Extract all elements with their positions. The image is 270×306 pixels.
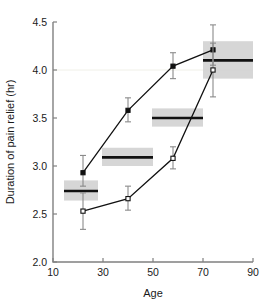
data-point-filled-square-series-1 <box>126 108 130 112</box>
y-tick-label-2: 3.0 <box>32 160 47 172</box>
x-axis-label: Age <box>143 287 163 299</box>
x-tick-label-1: 30 <box>97 266 109 278</box>
data-point-open-square-series-2 <box>171 156 175 160</box>
x-tick-label-4: 90 <box>247 266 259 278</box>
y-tick-label-1: 2.5 <box>32 208 47 220</box>
chart-figure: 2.02.53.03.54.04.5 1030507090 Age Durati… <box>0 0 270 306</box>
x-tick-label-2: 50 <box>147 266 159 278</box>
x-tick-label-0: 10 <box>47 266 59 278</box>
y-tick-label-4: 4.0 <box>32 64 47 76</box>
chart-canvas: 2.02.53.03.54.04.5 1030507090 Age Durati… <box>0 0 270 306</box>
data-point-filled-square-series-2 <box>171 64 175 68</box>
y-tick-label-0: 2.0 <box>32 256 47 268</box>
data-point-open-square-series-0 <box>81 209 85 213</box>
y-tick-label-5: 4.5 <box>32 16 47 28</box>
x-tick-label-3: 70 <box>197 266 209 278</box>
y-axis-label: Duration of pain relief (hr) <box>4 80 16 205</box>
y-tick-label-3: 3.5 <box>32 112 47 124</box>
data-point-open-square-series-1 <box>126 197 130 201</box>
data-point-filled-square-series-0 <box>81 171 85 175</box>
data-point-open-square-series-3 <box>211 68 215 72</box>
